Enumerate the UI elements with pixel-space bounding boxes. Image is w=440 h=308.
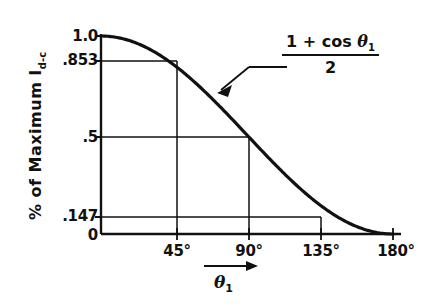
formula-numerator-lead: 1 + cos: [286, 32, 357, 51]
formula-theta-symbol: θ: [357, 32, 368, 51]
x-axis-theta-symbol: θ: [214, 272, 225, 292]
x-axis-theta-subscript: 1: [225, 282, 233, 295]
x-tick-label-135: 135°: [302, 242, 340, 260]
formula-denominator: 2: [282, 56, 379, 77]
chart-figure: % of Maximum Id-c 1.0 .853 .5 .147 0: [0, 0, 440, 308]
x-tick-label-90: 90°: [235, 242, 262, 260]
x-tick-label-45: 45°: [163, 242, 190, 260]
formula-numerator: 1 + cos θ1: [282, 32, 379, 54]
x-tick-label-180: 180°: [377, 242, 415, 260]
formula-theta-subscript: 1: [368, 42, 375, 53]
formula-annotation: 1 + cos θ1 2: [282, 32, 379, 77]
x-axis-title: θ1: [214, 272, 233, 295]
